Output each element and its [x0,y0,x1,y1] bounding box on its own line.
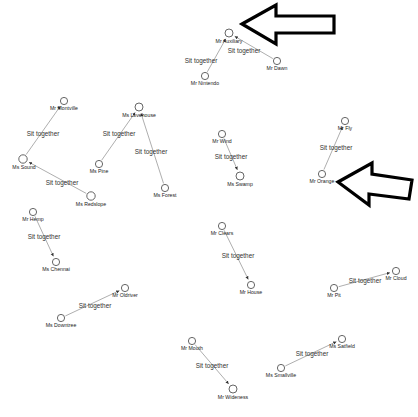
graph-node[interactable] [229,385,237,393]
graph-node[interactable] [338,335,345,342]
graph-node[interactable] [52,258,59,265]
node-label: Mr Pit [327,292,341,298]
graph-node[interactable] [318,170,325,177]
graph-node[interactable] [135,103,143,111]
node-label: Ms Forest [153,192,177,198]
graph-node[interactable] [57,314,64,321]
edge-labels-layer: Sit togetherSit togetherSit togetherSit … [27,47,383,370]
edge-label: Sit together [79,302,113,310]
graph-node[interactable] [392,267,399,274]
annotation-arrow-right [338,163,412,205]
edge-label: Sit together [27,130,61,138]
graph-node[interactable] [188,337,195,344]
graph-node[interactable] [225,29,233,37]
graph-node[interactable] [218,130,225,137]
node-label: Ms Lovehouse [122,112,156,118]
node-label: Mr Orange [310,178,335,184]
edge-label: Sit together [135,148,169,156]
node-label: Mr Nintendo [191,80,219,86]
graph-node[interactable] [60,97,67,104]
node-label: Mr Montville [50,105,78,111]
edges-layer [26,36,390,384]
node-label: Mr Cloud [385,275,406,281]
graph-node[interactable] [19,155,27,163]
edge-label: Sit together [215,153,249,161]
edge-label: Sit together [296,350,330,358]
node-label: Ms Smallville [266,372,296,378]
graph-node[interactable] [161,184,168,191]
node-label: Mr Oldriver [112,292,138,298]
edge-label: Sit together [228,47,262,55]
node-label: Ms Satfield [329,343,355,349]
node-label: Ms Pine [90,168,109,174]
edge-label: Sit together [222,252,256,260]
node-label: Mr House [240,289,263,295]
edge-label: Sit together [320,144,354,152]
graph-node[interactable] [218,222,225,229]
annotations-layer [242,5,412,205]
graph-node[interactable] [29,208,36,215]
network-graph[interactable]: Sit togetherSit togetherSit togetherSit … [0,0,418,417]
edge-label: Sit together [46,179,80,187]
graph-canvas: Sit togetherSit togetherSit togetherSit … [0,0,418,417]
node-label: Mr Dawn [267,65,288,71]
node-label: Ms Redslope [76,201,106,207]
edge-label: Sit together [349,277,383,285]
graph-node[interactable] [273,57,280,64]
edge-label: Sit together [103,130,137,138]
edge-label: Sit together [196,362,230,370]
graph-node[interactable] [330,284,337,291]
graph-node[interactable] [121,284,128,291]
graph-node[interactable] [87,192,95,200]
node-label: Ms Downtree [46,322,77,328]
node-label: Mr Clears [211,230,234,236]
graph-node[interactable] [247,281,254,288]
graph-node[interactable] [236,172,244,180]
node-label: Ms Sound [12,164,35,170]
edge-label: Sit together [185,57,219,65]
annotation-arrow-top [242,5,334,44]
graph-node[interactable] [95,160,102,167]
node-label: Mr Hemp [22,216,43,222]
node-label: Mr Fly [338,125,353,131]
node-label: Mr Auxiliary [216,38,243,44]
edge-label: Sit together [28,233,62,241]
node-label: Ms Swamp [227,181,253,187]
node-label: Mr Wind [212,138,231,144]
node-label: Mr Mouth [181,345,203,351]
graph-node[interactable] [201,72,208,79]
graph-node[interactable] [341,117,348,124]
node-label: Mr Wideness [218,394,249,400]
node-labels-layer: Mr AuxiliaryMr DawnMr NintendoMr Montvil… [12,38,406,400]
graph-node[interactable] [277,364,284,371]
node-label: Ms Chennai [42,266,70,272]
